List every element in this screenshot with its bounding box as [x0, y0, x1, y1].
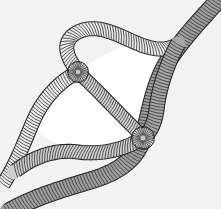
- junction-lower-right: [132, 127, 155, 150]
- figure-container: [0, 0, 221, 209]
- coiled-fibril-diagram: [0, 0, 221, 209]
- junction-upper-left: [68, 62, 89, 83]
